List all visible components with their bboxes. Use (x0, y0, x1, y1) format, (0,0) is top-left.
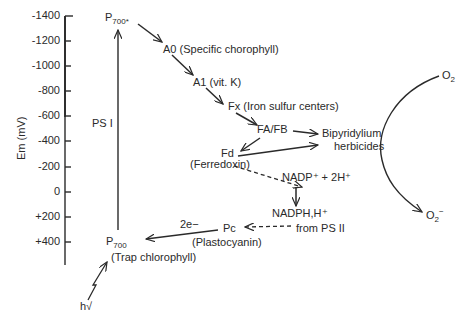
a0-label: A0 (Specific chorophyll) (163, 44, 279, 55)
tick-label: +400 (6, 236, 60, 247)
a1-label: A1 (vit. K) (193, 77, 241, 88)
tick-label: -1400 (6, 10, 60, 21)
fx-label: Fx (Iron sulfur centers) (228, 101, 339, 112)
p700-label: P700 (106, 236, 127, 250)
tick-label: -200 (6, 161, 60, 172)
hv-label: h√ (80, 301, 92, 312)
trap-chlorophyll-label: (Trap chlorophyll) (111, 252, 196, 263)
bipyridylium-label: Bipyridylium (322, 128, 381, 139)
y-axis-label: Em (mV) (16, 117, 27, 160)
superoxide-label: O2− (426, 208, 444, 224)
tick-label: -800 (6, 85, 60, 96)
two-electrons-label: 2e− (180, 219, 199, 230)
plastocyanin-label: (Plastocyanin) (192, 237, 262, 248)
tick-label: -1000 (6, 60, 60, 71)
pc-label: Pc (223, 223, 236, 234)
light-arrow (88, 262, 107, 300)
from-ps2-label: from PS II (296, 223, 345, 234)
y-axis (65, 0, 73, 265)
nadp-label: NADP⁺ + 2H⁺ (282, 172, 351, 183)
fafb-label: FA/FB (257, 124, 288, 135)
ferredoxin-label: (Ferredoxin) (190, 159, 250, 170)
herbicides-label: herbicides (334, 141, 384, 152)
p700-star-label: P700* (105, 12, 129, 26)
o2-label: O2 (442, 70, 455, 84)
nadph-label: NADPH,H⁺ (272, 208, 328, 219)
tick-label: -1200 (6, 35, 60, 46)
tick-label: 0 (6, 186, 60, 197)
o2-arc (381, 76, 439, 212)
tick-label: +200 (6, 211, 60, 222)
ps1-label: PS I (92, 118, 113, 129)
